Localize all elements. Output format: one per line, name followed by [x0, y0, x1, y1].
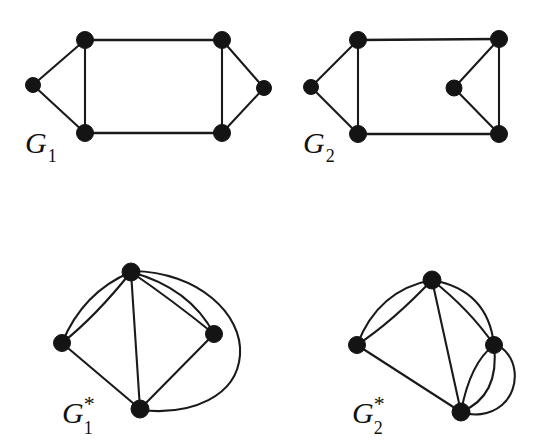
vertex-dot	[26, 78, 41, 93]
graph-g1-star	[54, 263, 241, 418]
vertex-dot	[77, 125, 94, 142]
graph-illustration-canvas	[0, 0, 557, 444]
vertex-dot	[54, 335, 71, 352]
vertex-dot	[423, 271, 441, 289]
vertex-dot	[304, 80, 319, 95]
graph-g1	[26, 32, 272, 142]
label-g1-subscript: 1	[48, 146, 57, 166]
edge-t-r-lower	[131, 272, 214, 334]
vertex-dot	[491, 126, 508, 143]
edge-e-f	[222, 88, 264, 133]
g1-star-vertices	[54, 263, 223, 418]
vertex-dot	[350, 126, 367, 143]
label-g2-subscript: 2	[326, 146, 335, 166]
label-g1-star-subscript: 1	[84, 418, 93, 438]
edge-t-l-lower	[62, 272, 131, 343]
edge-r-b-outer	[461, 345, 495, 412]
vertex-dot	[257, 81, 272, 96]
edge-t-l-lower	[357, 280, 432, 345]
g1-vertices	[26, 32, 272, 142]
label-g2-star-superscript: *	[374, 391, 385, 416]
edge-t-l-upper	[357, 280, 432, 345]
vertex-dot	[122, 263, 140, 281]
edge-r-b	[140, 334, 214, 409]
label-g1: G1	[25, 128, 56, 160]
vertex-dot	[214, 125, 231, 142]
edge-t-b-straight	[432, 280, 461, 412]
label-g1-star: G*1	[62, 398, 104, 430]
g1-edges	[33, 40, 264, 133]
edge-t-l-upper	[62, 272, 131, 343]
vertex-dot	[214, 32, 231, 49]
label-g2-star: G*2	[352, 398, 394, 430]
figure-root: G1 G2 G*1 G*2	[0, 0, 557, 444]
edge-e-g	[454, 88, 499, 134]
graph-g2	[304, 31, 508, 143]
label-g2-star-base: G	[352, 396, 374, 429]
vertex-dot	[491, 31, 508, 48]
edge-d-g	[454, 39, 499, 88]
edge-t-b-outer-arc	[133, 271, 240, 411]
vertex-dot	[486, 337, 503, 354]
edge-a-b	[33, 40, 85, 85]
edge-d-f	[222, 40, 264, 88]
label-g2: G2	[303, 128, 334, 160]
edge-t-b-straight	[131, 272, 140, 409]
label-g2-base: G	[303, 126, 325, 159]
vertex-dot	[446, 80, 462, 96]
vertex-dot	[206, 326, 223, 343]
vertex-dot	[350, 32, 367, 49]
vertex-dot	[77, 32, 94, 49]
label-g2-star-subscript: 2	[374, 418, 383, 438]
vertex-dot	[131, 400, 149, 418]
label-g1-star-superscript: *	[84, 391, 95, 416]
vertex-dot	[349, 337, 366, 354]
edge-t-r-upper	[432, 280, 494, 345]
g2-vertices	[304, 31, 508, 143]
edge-a-b	[311, 40, 358, 87]
label-g1-star-base: G	[62, 396, 84, 429]
vertex-dot	[452, 403, 470, 421]
g2-edges	[311, 39, 499, 134]
label-g1-base: G	[25, 126, 47, 159]
edge-b-d	[358, 39, 499, 40]
